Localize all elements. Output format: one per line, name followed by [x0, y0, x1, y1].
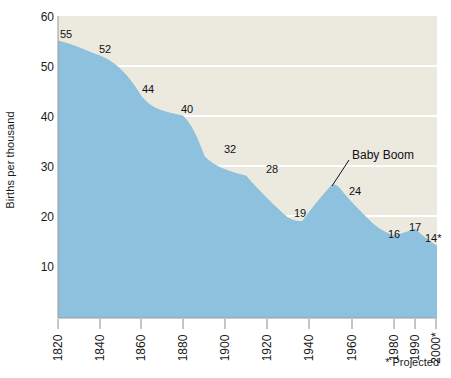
y-tick-label-10: 10 [2, 261, 54, 273]
data-label-1920: 28 [266, 164, 278, 175]
data-label-1860: 44 [142, 84, 154, 95]
data-label-1840: 52 [99, 44, 111, 55]
data-label-1960: 24 [349, 186, 361, 197]
data-label-1990: 17 [409, 222, 421, 233]
data-label-1940: 19 [294, 208, 306, 219]
data-label-1980: 16 [388, 229, 400, 240]
y-axis-tick-labels: 60 50 40 30 20 10 [0, 0, 54, 340]
data-label-1820: 55 [60, 29, 72, 40]
footnote-projected: * Projected [385, 356, 439, 368]
y-tick-label-60: 60 [2, 11, 54, 23]
y-tick-label-30: 30 [2, 161, 54, 173]
plot-area [0, 0, 451, 378]
y-tick-label-50: 50 [2, 61, 54, 73]
x-tick-marks [58, 319, 436, 329]
annotation-baby-boom: Baby Boom [352, 149, 414, 161]
data-label-2000: 14* [425, 233, 442, 244]
y-tick-label-40: 40 [2, 111, 54, 123]
data-label-1900: 32 [224, 144, 236, 155]
data-label-1880: 40 [181, 104, 193, 115]
y-tick-label-20: 20 [2, 211, 54, 223]
births-per-thousand-area-chart: Births per thousand 60 50 40 30 20 10 18… [0, 0, 451, 378]
